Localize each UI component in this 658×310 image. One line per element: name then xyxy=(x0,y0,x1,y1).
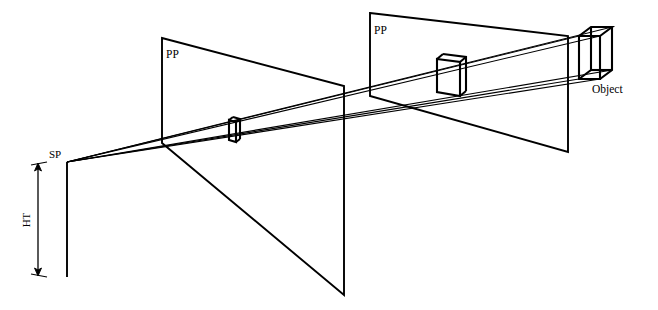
projected-image-far-front-face xyxy=(437,59,460,96)
label-picture-plane-far: PP xyxy=(374,24,387,36)
projected-image-far xyxy=(437,54,466,96)
projection-ray-6 xyxy=(67,36,579,162)
projection-ray-5 xyxy=(67,79,579,162)
label-object: Object xyxy=(592,83,623,96)
label-picture-plane-near: PP xyxy=(166,48,179,60)
height-dimension xyxy=(31,162,47,277)
projection-ray-2 xyxy=(67,36,600,162)
picture-plane-near-outline xyxy=(162,38,344,295)
label-station-point: SP xyxy=(49,148,61,160)
picture-plane-near xyxy=(162,38,344,295)
diagram-canvas: SP HT PP PP Object xyxy=(0,0,658,310)
label-height: HT xyxy=(20,212,32,227)
projected-image-near xyxy=(229,117,240,142)
perspective-diagram: SP HT PP PP Object xyxy=(0,0,658,310)
